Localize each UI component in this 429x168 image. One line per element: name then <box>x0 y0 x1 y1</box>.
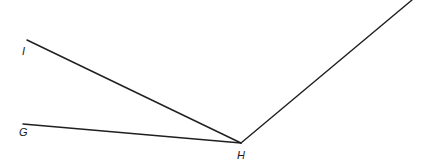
ray-H-upper-right <box>241 0 412 143</box>
vertex-label-g: G <box>19 127 28 138</box>
geometry-figure-canvas: I G H <box>0 0 429 168</box>
vertex-label-h: H <box>237 150 245 161</box>
geometry-diagram <box>0 0 429 168</box>
vertex-label-i: I <box>22 46 25 57</box>
